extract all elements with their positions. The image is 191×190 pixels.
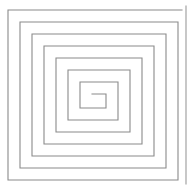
spiral-diagram [0,0,191,190]
figure-background [0,0,191,190]
figure-container: Rectangular spiral line drawing [0,0,191,190]
